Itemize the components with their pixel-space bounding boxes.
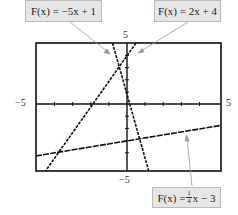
- line-neg5x-plus-1: [113, 43, 149, 171]
- fraction-one-quarter: 1 4: [186, 190, 192, 205]
- callout-label-quarter-x-minus-3: F(x) = 1 4 x − 3: [152, 187, 221, 208]
- line-quarter-x-minus-3: [36, 125, 221, 155]
- fraction-denominator: 4: [187, 198, 191, 205]
- x-max-label: 5: [226, 97, 231, 108]
- callout-text-prefix: F(x) =: [157, 192, 185, 204]
- callout-label-2x-plus-4: F(x) = 2x + 4: [154, 0, 221, 22]
- callout-text: F(x) = −5x + 1: [31, 5, 96, 17]
- callout-text: F(x) = 2x + 4: [158, 5, 217, 17]
- y-min-label: −5: [119, 174, 130, 185]
- callout-label-neg5x-plus-1: F(x) = −5x + 1: [25, 0, 102, 22]
- y-max-label: 5: [123, 29, 128, 40]
- plot-frame: [36, 43, 221, 171]
- callout-text-suffix: x − 3: [193, 192, 216, 204]
- x-min-label: −5: [15, 97, 26, 108]
